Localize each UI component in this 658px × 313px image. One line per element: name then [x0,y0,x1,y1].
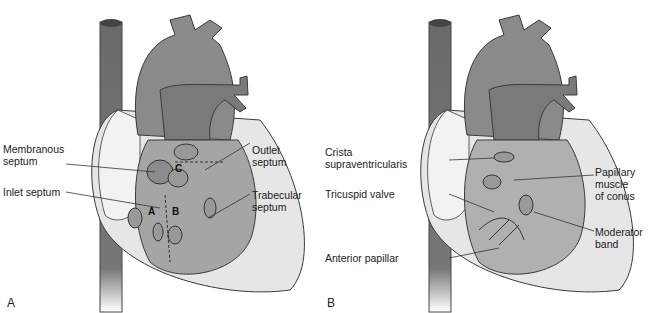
panel-a: Membranous septum Inlet septum Outlet se… [0,0,329,313]
region-b-marker: B [172,206,179,217]
label-membranous-septum: Membranous septum [3,143,64,167]
panel-b: Crista supraventricularis Tricuspid valv… [329,0,658,313]
panel-letter-b: B [327,296,335,310]
panel-letter-a: A [7,296,15,310]
label-papillary-muscle-of-conus: Papillary muscle of conus [595,166,635,202]
label-anterior-papillar: Anterior papillar [325,252,399,264]
label-crista-supraventricularis: Crista supraventricularis [325,146,407,170]
label-trabecular-septum: Trabecular septum [252,189,302,213]
label-moderator-band: Moderator band [595,226,643,250]
label-inlet-septum: Inlet septum [3,186,60,198]
label-tricuspid-valve: Tricuspid valve [325,188,395,200]
region-c-marker: C [175,163,182,174]
region-a-marker: A [148,206,155,217]
label-outlet-septum: Outlet septum [252,144,286,168]
